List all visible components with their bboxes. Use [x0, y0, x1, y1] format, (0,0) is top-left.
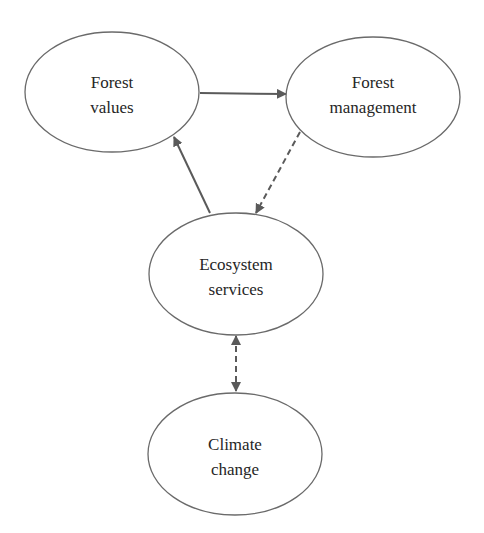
node-label-line2: services: [209, 280, 264, 299]
node-forest-values: Forest values: [25, 32, 199, 152]
dashed-arrow-icon: [256, 132, 300, 213]
node-label-line1: Forest: [352, 73, 395, 92]
solid-arrow-icon: [200, 93, 286, 94]
node-ecosystem-services: Ecosystem services: [149, 213, 323, 335]
node-ellipse: [25, 32, 199, 152]
node-label-line2: values: [90, 98, 133, 117]
edge-forest-values-to-forest-management: [200, 93, 286, 94]
solid-arrow-icon: [174, 137, 210, 213]
edge-ecosystem-services-to-forest-values: [174, 137, 210, 213]
node-ellipse: [286, 37, 460, 157]
node-label-line2: change: [211, 460, 259, 479]
node-ellipse: [149, 213, 323, 335]
node-label-line2: management: [330, 98, 417, 117]
node-forest-management: Forest management: [286, 37, 460, 157]
node-label-line1: Forest: [91, 73, 134, 92]
node-ellipse: [148, 393, 322, 515]
node-climate-change: Climate change: [148, 393, 322, 515]
edge-forest-management-to-ecosystem-services: [256, 132, 300, 213]
node-label-line1: Ecosystem: [199, 255, 273, 274]
node-label-line1: Climate: [208, 435, 262, 454]
forest-ecosystem-diagram: Forest values Forest management Ecosyste…: [0, 0, 484, 533]
